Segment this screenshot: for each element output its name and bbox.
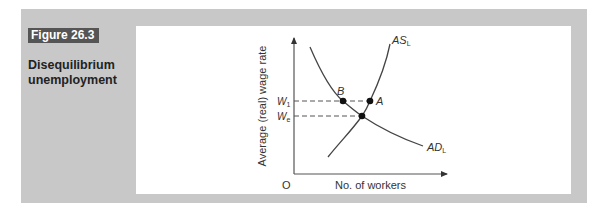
ad-curve [310,47,423,146]
labour-market-diagram: B A ASL ADL W1 We O No. of workers Avera… [0,0,612,203]
ad-curve-label: ADL [426,141,446,154]
origin-label: O [282,179,291,191]
point-a-dot [367,98,374,105]
point-b-dot [340,98,347,105]
we-label: We [277,111,290,123]
point-a-label: A [375,95,383,107]
y-axis-label: Average (real) wage rate [256,46,268,167]
equilibrium-dot [359,113,366,120]
x-axis-label: No. of workers [335,179,406,191]
point-b-label: B [337,85,344,97]
as-curve-label: ASL [391,34,411,47]
w1-label: W1 [277,96,290,108]
